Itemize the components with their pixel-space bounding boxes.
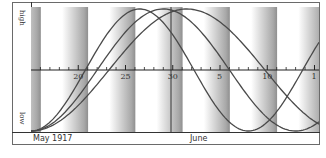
svg-text:10: 10: [262, 72, 272, 81]
x-label-may: May 1917: [33, 134, 72, 143]
svg-text:30: 30: [168, 72, 178, 81]
plot-area: 2025305101: [31, 7, 319, 132]
svg-text:1: 1: [312, 72, 317, 81]
y-label-high: high: [18, 10, 26, 26]
x-label-june: June: [190, 134, 207, 143]
svg-text:20: 20: [73, 72, 83, 81]
svg-text:5: 5: [217, 72, 222, 81]
y-label-low: low: [18, 112, 26, 124]
svg-text:25: 25: [121, 72, 131, 81]
